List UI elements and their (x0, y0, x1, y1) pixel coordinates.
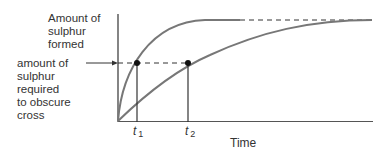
reaction-graph (0, 0, 391, 157)
t1-label: t1 (133, 124, 143, 139)
t2-point (185, 60, 191, 66)
t1-point (134, 60, 140, 66)
x-axis-label: Time (230, 137, 256, 150)
t2-label: t2 (185, 124, 195, 139)
t1-base: t (133, 124, 136, 138)
arrow-head-icon (112, 61, 118, 66)
t1-sub: 1 (138, 129, 143, 139)
t2-base: t (185, 124, 188, 138)
t2-sub: 2 (190, 129, 195, 139)
slow-reaction-curve (118, 20, 372, 121)
